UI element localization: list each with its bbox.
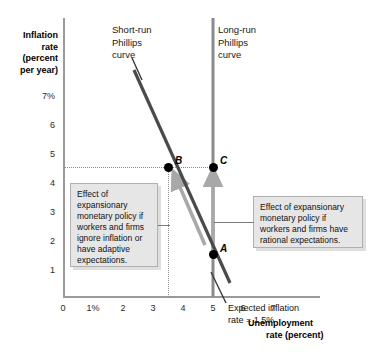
data-point-a	[209, 250, 218, 259]
data-point-b	[164, 163, 173, 172]
expected-inflation-note-line-2: rate = 1.5%	[228, 314, 299, 326]
phillips-curve-figure: Inflation rate (percent per year) Unempl…	[0, 0, 382, 356]
long-run-curve-label-line-2: Phillips	[218, 37, 256, 50]
callout-adaptive-expectations: Effect of expansionary monetary policy i…	[70, 183, 158, 267]
short-run-curve-label-line-3: curve	[112, 49, 152, 62]
long-run-curve-label: Long-run Phillips curve	[218, 24, 256, 62]
expected-inflation-note-line-1: Expected inflation	[228, 302, 299, 314]
expected-inflation-note: Expected inflation rate = 1.5%	[228, 302, 299, 326]
long-run-curve-label-line-3: curve	[218, 49, 256, 62]
data-point-c-label: C	[220, 155, 227, 166]
curves-layer	[0, 0, 382, 356]
short-run-curve-label-line-1: Short-run	[112, 24, 152, 37]
arrow-a-to-b	[176, 178, 205, 245]
data-point-c	[209, 163, 218, 172]
short-run-curve-label-line-2: Phillips	[112, 37, 152, 50]
short-run-curve-label: Short-run Phillips curve	[112, 24, 152, 62]
data-point-a-label: A	[220, 243, 227, 254]
long-run-curve-label-line-1: Long-run	[218, 24, 256, 37]
callout-left-leader	[158, 225, 170, 226]
data-point-b-label: B	[175, 155, 182, 166]
callout-rational-expectations: Effect of expansionary monetary policy i…	[253, 196, 363, 248]
callout-right-leader	[214, 222, 254, 223]
